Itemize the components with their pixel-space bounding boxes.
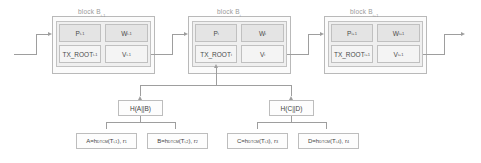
merkle-ab-bus xyxy=(106,122,175,123)
block-current-cell-p[interactable]: Pi xyxy=(195,24,237,42)
block-current-cell-tx-root[interactable]: TX_ROOTi xyxy=(195,45,237,63)
merkle-root-stem xyxy=(216,68,217,85)
block-next-cell-p[interactable]: Pi+1 xyxy=(331,24,373,42)
merkle-leaf-a-var: A=h xyxy=(86,138,97,144)
block-next-cell-tx-root[interactable]: TX_ROOTi+1 xyxy=(331,45,373,63)
merkle-root-branch-right xyxy=(291,85,292,96)
merkle-leaf-c[interactable]: C=hDTCM(Ti,3), r3 xyxy=(227,133,288,149)
chain-link-2-segment-h1 xyxy=(287,54,309,55)
block-title-next-text: block B xyxy=(350,8,373,15)
merkle-leaf-c-var: C=h xyxy=(237,138,248,144)
merkle-node-hash-cd[interactable]: H(C||D) xyxy=(269,100,314,116)
merkle-leaf-d-arg: (T xyxy=(330,138,336,144)
block-prev-cell-p[interactable]: Pi-1 xyxy=(59,24,101,42)
chain-outflow-arrowhead xyxy=(461,32,465,36)
block-title-prev-sub: i-1 xyxy=(101,13,106,18)
block-title-current-sub: i xyxy=(240,13,241,18)
block-current-cell-v[interactable]: Vi xyxy=(241,45,284,63)
block-next-cell-tx-root-label: TX_ROOT xyxy=(334,51,365,58)
merkle-node-hash-ab[interactable]: H(A||B) xyxy=(118,100,163,116)
diagram-canvas: block Bi-1 Pi-1 Wi-1 TX_ROOTi-1 Vi-1 blo… xyxy=(0,0,481,163)
block-prev-cell-v[interactable]: Vi-1 xyxy=(105,45,148,63)
chain-link-1-segment-v xyxy=(172,34,173,55)
chain-outflow-segment-v xyxy=(444,34,445,55)
merkle-leaf-b-var: B=h xyxy=(157,138,168,144)
chain-link-2-segment-v xyxy=(308,34,309,55)
chain-outflow-segment-h1 xyxy=(423,54,445,55)
block-title-prev-text: block B xyxy=(78,8,101,15)
block-prev-cell-tx-root[interactable]: TX_ROOTi-1 xyxy=(59,45,101,63)
block-current-cell-tx-root-label: TX_ROOT xyxy=(200,51,231,58)
block-next-cell-w-label: W xyxy=(393,30,399,37)
merkle-leaf-c-riser xyxy=(257,122,258,129)
block-current-cell-w[interactable]: Wi xyxy=(241,24,284,42)
block-title-next: block Bi+1 xyxy=(350,8,379,15)
block-prev-cell-w[interactable]: Wi-1 xyxy=(105,24,148,42)
merkle-root-branch-left xyxy=(140,85,141,96)
merkle-leaf-c-arg: (T xyxy=(259,138,265,144)
block-title-prev: block Bi-1 xyxy=(78,8,106,15)
chain-inflow-segment-h1 xyxy=(14,54,36,55)
merkle-leaf-a[interactable]: A=hDTCM(Ti,1), r1 xyxy=(76,133,137,149)
merkle-leaf-a-tail: ), r xyxy=(117,138,124,144)
merkle-leaf-d-riser xyxy=(326,122,327,129)
merkle-leaf-c-tail: ), r xyxy=(269,138,276,144)
block-title-next-sub: i+1 xyxy=(373,13,379,18)
merkle-leaf-b[interactable]: B=hDTCM(Ti,2), r2 xyxy=(147,133,208,149)
chain-outflow-segment-h2 xyxy=(444,34,462,35)
merkle-leaf-b-tail: ), r xyxy=(188,138,195,144)
merkle-root-bus xyxy=(140,85,292,86)
block-next-cell-v[interactable]: Vi+1 xyxy=(377,45,420,63)
block-title-current: block Bi xyxy=(217,8,241,15)
merkle-leaf-d-tail: ), r xyxy=(340,138,347,144)
merkle-leaf-b-riser xyxy=(175,122,176,129)
block-prev-cell-tx-root-label: TX_ROOT xyxy=(62,51,93,58)
block-title-current-text: block B xyxy=(217,8,240,15)
block-next-cell-w[interactable]: Wi+1 xyxy=(377,24,420,42)
merkle-leaf-d[interactable]: D=hDTCM(Ti,4), r4 xyxy=(298,133,359,149)
merkle-leaf-d-var: D=h xyxy=(308,138,319,144)
merkle-leaf-a-riser xyxy=(106,122,107,129)
merkle-cd-bus xyxy=(257,122,326,123)
chain-inflow-segment-v xyxy=(36,34,37,55)
chain-link-1-segment-h1 xyxy=(151,54,173,55)
